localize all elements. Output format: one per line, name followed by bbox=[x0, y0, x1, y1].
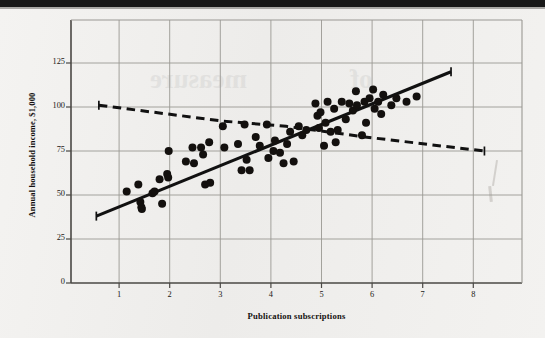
tick-marks bbox=[66, 63, 473, 288]
plot-frame bbox=[71, 20, 522, 283]
y-axis-title: Annual household income, $1,000 bbox=[27, 60, 37, 250]
x-tick-label: 2 bbox=[158, 290, 182, 299]
y-tick-label: 0 bbox=[31, 277, 65, 286]
x-tick-label: 4 bbox=[259, 290, 283, 299]
x-tick-label: 7 bbox=[411, 290, 435, 299]
x-tick-label: 6 bbox=[360, 290, 384, 299]
x-tick-label: 1 bbox=[107, 290, 131, 299]
grid-lines bbox=[71, 20, 522, 283]
x-axis-title: Publication subscriptions bbox=[71, 311, 522, 321]
x-tick-label: 5 bbox=[310, 290, 334, 299]
x-tick-label: 8 bbox=[461, 290, 485, 299]
scatter-chart bbox=[0, 0, 545, 338]
data-points bbox=[123, 85, 421, 213]
x-tick-label: 3 bbox=[208, 290, 232, 299]
